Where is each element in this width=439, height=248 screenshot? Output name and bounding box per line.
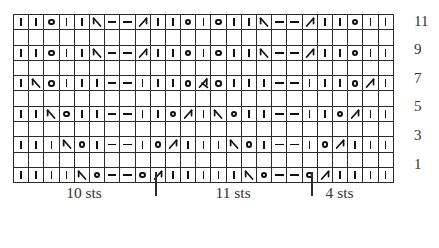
chart-cell	[211, 91, 226, 106]
chart-cell	[226, 122, 241, 137]
knit-stitch-icon	[44, 168, 58, 182]
yarn-over-icon	[151, 137, 165, 151]
chart-cell	[196, 106, 211, 121]
chart-cell	[287, 137, 302, 152]
knit-stitch-icon	[136, 107, 150, 121]
ssk-decrease-icon	[90, 15, 104, 29]
knit-stitch-icon	[44, 137, 58, 151]
chart-cell	[150, 152, 165, 167]
chart-cell	[226, 106, 241, 121]
knit-stitch-icon	[379, 76, 393, 90]
knit-stitch-icon	[196, 168, 210, 182]
knit-stitch-icon	[379, 107, 393, 121]
chart-cell	[348, 122, 363, 137]
knit-stitch-icon	[151, 76, 165, 90]
chart-cell	[29, 91, 44, 106]
chart-cell	[165, 122, 180, 137]
knit-stitch-icon	[348, 168, 362, 182]
chart-cell	[89, 45, 104, 60]
yarn-over-icon	[166, 107, 180, 121]
chart-cell	[59, 167, 74, 182]
chart-cell	[363, 137, 378, 152]
chart-cell	[257, 45, 272, 60]
knit-stitch-icon	[14, 76, 28, 90]
purl-dash-icon	[287, 46, 301, 60]
chart-cell	[120, 30, 135, 45]
chart-cell	[181, 15, 196, 30]
chart-cell	[105, 137, 120, 152]
knit-stitch-icon	[363, 107, 377, 121]
yarn-over-icon	[211, 15, 225, 29]
chart-cell	[135, 122, 150, 137]
chart-cell	[302, 91, 317, 106]
chart-cell	[257, 15, 272, 30]
chart-cell	[196, 137, 211, 152]
chart-row-9	[14, 45, 394, 60]
chart-cell	[226, 60, 241, 75]
chart-cell	[348, 152, 363, 167]
yarn-over-icon	[227, 107, 241, 121]
chart-cell	[44, 76, 59, 91]
knit-stitch-icon	[196, 137, 210, 151]
k2tog-decrease-icon	[303, 46, 317, 60]
chart-cell	[241, 15, 256, 30]
chart-cell	[29, 122, 44, 137]
chart-cell	[135, 76, 150, 91]
knit-stitch-icon	[14, 15, 28, 29]
knit-stitch-icon	[90, 76, 104, 90]
knit-stitch-icon	[60, 168, 74, 182]
chart-cell	[89, 91, 104, 106]
knit-stitch-icon	[333, 76, 347, 90]
k2tog-decrease-icon	[166, 137, 180, 151]
chart-cell	[211, 15, 226, 30]
chart-cell	[181, 137, 196, 152]
chart-cell	[59, 45, 74, 60]
chart-cell	[74, 167, 89, 182]
knit-stitch-icon	[29, 107, 43, 121]
knit-stitch-icon	[151, 15, 165, 29]
knit-stitch-icon	[318, 76, 332, 90]
chart-cell	[241, 45, 256, 60]
chart-cell	[302, 15, 317, 30]
chart-cell	[74, 15, 89, 30]
chart-cell	[317, 76, 332, 91]
chart-cell	[363, 76, 378, 91]
chart-cell	[317, 167, 332, 182]
knit-stitch-icon	[333, 168, 347, 182]
purl-dash-icon	[287, 15, 301, 29]
chart-cell	[89, 122, 104, 137]
ssk-decrease-icon	[90, 46, 104, 60]
chart-cell	[211, 152, 226, 167]
chart-cell	[59, 30, 74, 45]
knit-stitch-icon	[60, 15, 74, 29]
chart-cell	[241, 137, 256, 152]
chart-cell	[272, 137, 287, 152]
chart-row-blank	[14, 122, 394, 137]
chart-cell	[332, 122, 347, 137]
chart-cell	[226, 167, 241, 182]
chart-cell	[89, 30, 104, 45]
ssk-decrease-icon	[75, 168, 89, 182]
yarn-over-icon	[348, 46, 362, 60]
chart-cell	[135, 45, 150, 60]
row-number-1: 1	[414, 157, 438, 172]
chart-cell	[105, 60, 120, 75]
chart-cell	[287, 15, 302, 30]
knit-stitch-icon	[29, 15, 43, 29]
chart-cell	[105, 122, 120, 137]
chart-row-blank	[14, 91, 394, 106]
chart-cell	[363, 91, 378, 106]
chart-cell	[211, 60, 226, 75]
chart-cell	[120, 137, 135, 152]
knit-stitch-icon	[75, 46, 89, 60]
chart-cell	[287, 122, 302, 137]
chart-row-blank	[14, 30, 394, 45]
chart-cell	[196, 30, 211, 45]
purl-dash-icon	[287, 137, 301, 151]
knit-stitch-icon	[75, 107, 89, 121]
knit-stitch-icon	[14, 107, 28, 121]
knit-stitch-icon	[151, 107, 165, 121]
chart-cell	[257, 106, 272, 121]
knit-stitch-icon	[29, 137, 43, 151]
chart-cell	[332, 152, 347, 167]
